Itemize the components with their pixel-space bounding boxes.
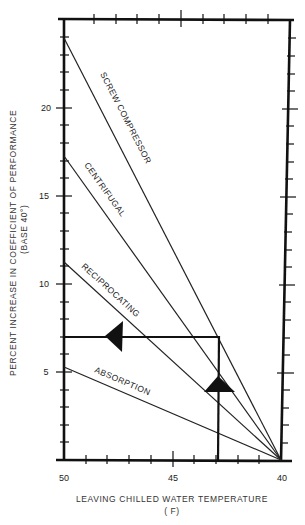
cop-chart: SCREW COMPRESSOR CENTRIFUGAL RECIPROCATI…	[0, 0, 305, 525]
chart-frame	[56, 19, 294, 461]
right-axis	[281, 20, 290, 461]
reciprocating-line	[64, 262, 281, 460]
x-tick-45: 45	[168, 473, 178, 483]
x-axis-title: LEAVING CHILLED WATER TEMPERATURE	[76, 494, 268, 504]
x-tick-40: 40	[277, 473, 287, 483]
reciprocating-label: RECIPROCATING	[80, 261, 142, 319]
centrifugal-label: CENTRIFUGAL	[82, 160, 128, 218]
y-tick-15: 15	[39, 191, 49, 201]
y-tick-10: 10	[39, 279, 49, 289]
y-axis-title: PERCENT INCREASE IN COEFFICIENT OF PERFO…	[8, 110, 18, 376]
x-axis-unit: ( F)	[164, 506, 180, 516]
up-arrow-icon	[204, 376, 235, 392]
x-tick-50: 50	[59, 473, 69, 483]
screw-compressor-line	[64, 38, 281, 460]
screw-compressor-label: SCREW COMPRESSOR	[98, 70, 153, 165]
y-axis-subtitle: (BASE 40°)	[19, 204, 29, 254]
y-tick-5: 5	[43, 367, 48, 377]
y-tick-20: 20	[41, 103, 51, 113]
centrifugal-line	[64, 156, 281, 460]
bottom-axis	[56, 460, 292, 461]
left-arrow-icon	[105, 321, 123, 352]
guide-vertical-line	[218, 336, 219, 461]
